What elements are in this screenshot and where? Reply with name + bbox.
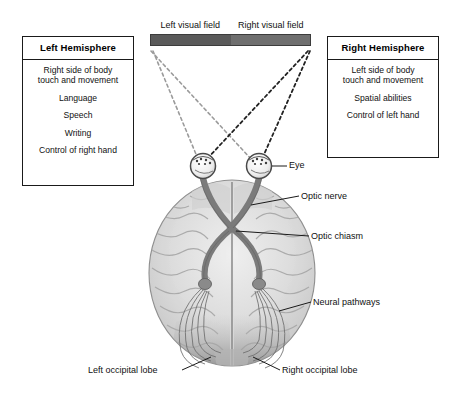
left-visual-field-label: Left visual field (150, 20, 231, 31)
visual-field-group: Left visual field Right visual field (150, 20, 311, 46)
leader-left-occipital (182, 357, 211, 370)
callout-neural-pathways: Neural pathways (313, 297, 380, 308)
left-lgn (199, 279, 212, 290)
left-hemisphere-title: Left Hemisphere (23, 37, 133, 60)
right-hemisphere-item-1: Left side of body touch and movement (332, 65, 434, 86)
visual-field-bar (150, 34, 311, 46)
diagram-canvas: Left visual field Right visual field Lef… (0, 0, 459, 395)
left-hemisphere-item-3: Speech (27, 110, 129, 121)
left-hemisphere-item-5: Control of right hand (27, 145, 129, 156)
left-hemisphere-item-1: Right side of body touch and movement (27, 65, 129, 86)
left-eye (191, 154, 216, 179)
right-lgn (253, 279, 266, 290)
right-hemisphere-box: Right Hemisphere Left side of body touch… (327, 36, 439, 158)
left-hemisphere-box: Left Hemisphere Right side of body touch… (22, 36, 134, 186)
left-hemisphere-list: Right side of body touch and movement La… (23, 60, 133, 160)
callout-optic-chiasm: Optic chiasm (311, 231, 363, 242)
visual-field-projection-lines (151, 51, 310, 160)
callout-right-occipital-lobe: Right occipital lobe (282, 365, 358, 376)
ray-right-field-to-left-eye (206, 51, 308, 160)
brain-illustration (149, 180, 315, 374)
right-visual-field-label: Right visual field (231, 20, 312, 31)
right-visual-field-swatch (231, 35, 311, 45)
ray-left-field-to-right-eye (151, 51, 252, 160)
ray-right-field-to-right-eye (262, 51, 310, 159)
right-hemisphere-title: Right Hemisphere (328, 37, 438, 60)
callout-optic-nerve: Optic nerve (301, 191, 347, 202)
right-eye (247, 154, 272, 179)
callout-eye: Eye (289, 160, 305, 171)
left-visual-field-swatch (151, 35, 231, 45)
left-hemisphere-item-2: Language (27, 93, 129, 104)
ray-left-field-to-left-eye (153, 51, 198, 159)
right-hemisphere-item-2: Spatial abilities (332, 93, 434, 104)
right-hemisphere-item-3: Control of left hand (332, 110, 434, 121)
visual-field-labels: Left visual field Right visual field (150, 20, 311, 31)
right-hemisphere-list: Left side of body touch and movement Spa… (328, 60, 438, 125)
left-hemisphere-item-4: Writing (27, 128, 129, 139)
leader-right-occipital (253, 357, 280, 370)
callout-left-occipital-lobe: Left occipital lobe (88, 365, 158, 376)
eyes-group (191, 154, 272, 179)
